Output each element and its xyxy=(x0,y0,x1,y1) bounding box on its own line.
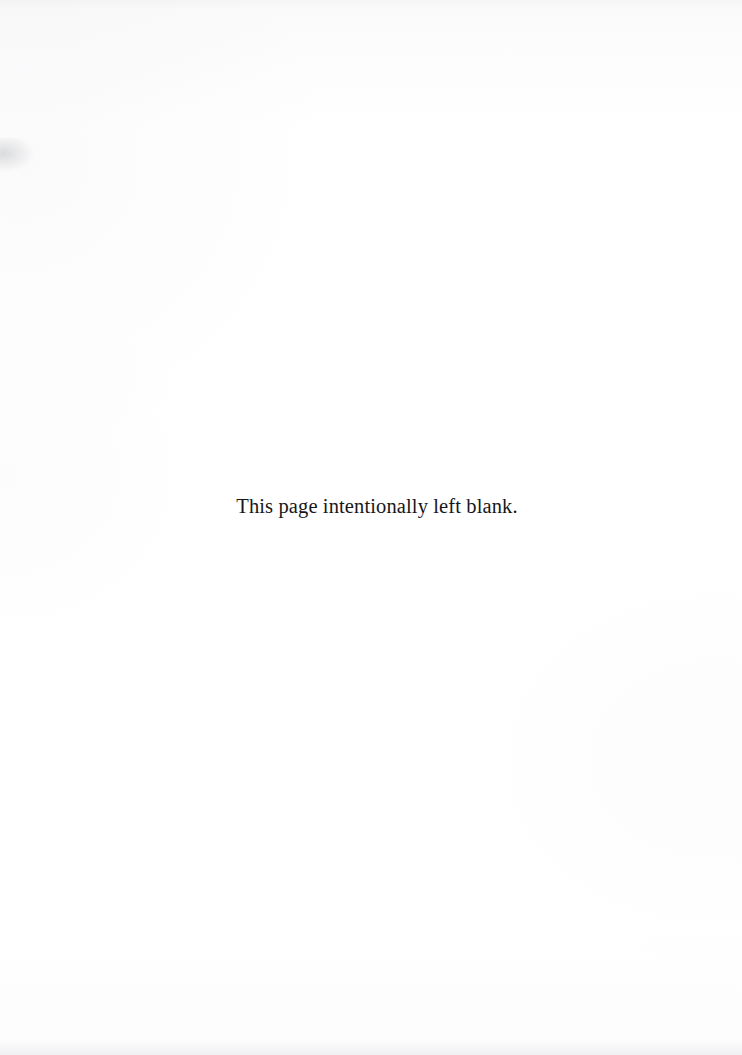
document-page: This page intentionally left blank. xyxy=(0,0,742,1055)
scan-edge-band-bottom xyxy=(0,1041,742,1055)
blank-page-notice-text: This page intentionally left blank. xyxy=(236,494,517,518)
scan-smudge-left xyxy=(0,138,34,172)
scan-edge-band-top xyxy=(0,0,742,10)
paper-texture xyxy=(0,0,742,1055)
blank-page-notice: This page intentionally left blank. xyxy=(0,494,742,518)
